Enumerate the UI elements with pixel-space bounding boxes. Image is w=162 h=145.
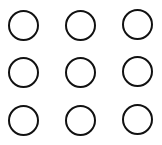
pattern-node-1[interactable] (8, 10, 39, 41)
pattern-lock-grid (0, 0, 162, 145)
pattern-node-7[interactable] (8, 105, 39, 136)
pattern-node-8[interactable] (65, 105, 96, 136)
pattern-node-9[interactable] (122, 104, 153, 135)
pattern-node-4[interactable] (8, 57, 39, 88)
pattern-node-6[interactable] (122, 56, 153, 87)
pattern-node-2[interactable] (65, 10, 96, 41)
pattern-node-5[interactable] (65, 57, 96, 88)
pattern-node-3[interactable] (122, 9, 153, 40)
